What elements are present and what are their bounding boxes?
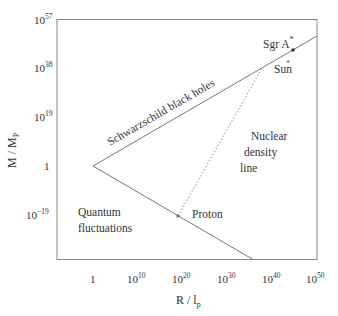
schwarzschild-label: Schwarzschild black holes <box>105 76 217 148</box>
x-tick-10: 1010 <box>127 271 146 285</box>
quantum-label-1: Quantum <box>78 206 121 218</box>
x-tick-50: 1050 <box>306 271 325 285</box>
sun-marker: * <box>286 59 290 68</box>
y-tick-19: 1019 <box>34 109 53 123</box>
x-tick-30: 1030 <box>217 271 236 285</box>
nuclear-label-2: density <box>244 146 277 159</box>
sgr-a-point <box>291 48 295 52</box>
proton-label: Proton <box>192 208 223 220</box>
sgr-a-label: Sgr A* <box>263 35 294 51</box>
x-tick-20: 1020 <box>172 271 191 285</box>
y-tick-38: 1038 <box>34 60 53 74</box>
y-axis-title: M / MP <box>5 132 21 168</box>
y-tick-minus19: 10−19 <box>26 207 49 221</box>
nuclear-label-3: line <box>240 162 257 174</box>
schwarzschild-line <box>93 36 317 166</box>
x-tick-0: 1 <box>90 273 96 285</box>
y-tick-0: 1 <box>44 160 50 172</box>
x-axis-title: R / lp <box>176 293 201 309</box>
nuclear-label-1: Nuclear <box>251 130 288 142</box>
proton-point <box>176 214 180 218</box>
x-tick-labels: 1 1010 1020 1030 1040 1050 <box>90 271 325 285</box>
mass-radius-chart: 1057 1038 1019 1 10−19 1 1010 1020 1030 … <box>0 0 338 316</box>
x-tick-40: 1040 <box>262 271 281 285</box>
quantum-label-2: fluctuations <box>78 222 133 234</box>
y-tick-labels: 1057 1038 1019 1 10−19 <box>26 12 53 221</box>
y-tick-57: 1057 <box>34 12 53 26</box>
